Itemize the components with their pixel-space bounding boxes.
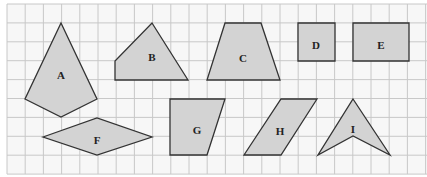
shape-d: D [298,23,335,61]
shapes-diagram: ABCDEFGHI [0,0,427,177]
shape-label: G [193,124,202,136]
shape-label: H [276,125,285,137]
shape-e: E [353,23,409,61]
shape-label: A [57,69,65,81]
shape-label: C [239,52,247,64]
diagram-svg: ABCDEFGHI [0,0,427,177]
shape-label: E [377,39,384,51]
shape-label: B [148,51,156,63]
shape-label: F [94,134,101,146]
shape-label: I [351,123,355,135]
shape-label: D [312,39,320,51]
